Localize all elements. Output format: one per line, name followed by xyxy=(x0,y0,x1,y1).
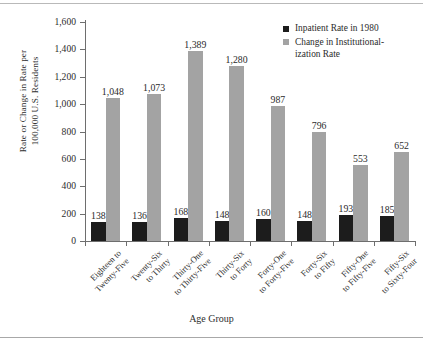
bar[interactable] xyxy=(297,221,312,241)
x-axis-tick xyxy=(291,241,292,246)
bottom-divider-rule xyxy=(0,337,423,338)
x-axis-tick xyxy=(250,241,251,246)
legend-swatch-icon-inpatient xyxy=(283,26,289,32)
legend-label-change-line-2: ization Rate xyxy=(295,48,423,61)
y-axis-tick xyxy=(80,186,85,187)
bar[interactable] xyxy=(380,216,395,241)
bar[interactable] xyxy=(188,51,203,241)
bar[interactable] xyxy=(106,98,121,241)
y-axis-tick-label: 400 xyxy=(16,181,76,191)
y-axis-tick xyxy=(80,132,85,133)
bar[interactable] xyxy=(394,152,409,241)
x-axis-tick xyxy=(374,241,375,246)
bar[interactable] xyxy=(91,222,106,241)
y-axis-tick xyxy=(80,104,85,105)
bar-value-label: 1,280 xyxy=(222,54,251,65)
bar-value-label: 652 xyxy=(387,140,416,151)
bar[interactable] xyxy=(215,221,230,241)
bar[interactable] xyxy=(147,94,162,241)
bar[interactable] xyxy=(312,132,327,241)
bar[interactable] xyxy=(229,66,244,241)
bar-chart-figure: Rate or Change in Rate per 100,000 U.S. … xyxy=(0,0,423,347)
y-axis-tick xyxy=(80,159,85,160)
x-axis-tick xyxy=(168,241,169,246)
legend-label-change-line-1: Change in Institutional- xyxy=(295,36,423,49)
y-axis-tick xyxy=(80,49,85,50)
y-axis-tick-label: 1,400 xyxy=(16,44,76,54)
x-axis-tick xyxy=(333,241,334,246)
y-axis-tick-label: 1,600 xyxy=(16,17,76,27)
legend-entry-change-institutionalization[interactable]: Change in Institutional- ization Rate xyxy=(283,36,423,61)
legend-entry-inpatient-rate[interactable]: Inpatient Rate in 1980 xyxy=(283,22,423,35)
y-axis-tick-label: 0 xyxy=(16,236,76,246)
y-axis-tick-label: 1,000 xyxy=(16,99,76,109)
y-axis-tick-label: 200 xyxy=(16,209,76,219)
y-axis-tick-label: 600 xyxy=(16,154,76,164)
legend-label-inpatient: Inpatient Rate in 1980 xyxy=(295,22,423,35)
bar[interactable] xyxy=(132,222,147,241)
bar-value-label: 1,389 xyxy=(181,39,210,50)
y-axis-tick-label: 800 xyxy=(16,127,76,137)
legend-swatch-icon-change xyxy=(283,39,289,45)
y-axis-tick xyxy=(80,22,85,23)
bar-value-label: 1,073 xyxy=(140,82,169,93)
bar[interactable] xyxy=(174,218,189,241)
bar[interactable] xyxy=(339,215,354,241)
bar[interactable] xyxy=(353,165,368,241)
y-axis-tick xyxy=(80,77,85,78)
x-axis-title: Age Group xyxy=(0,313,423,324)
x-axis-tick xyxy=(126,241,127,246)
bar-value-label: 1,048 xyxy=(99,86,128,97)
bar[interactable] xyxy=(271,106,286,241)
bar-value-label: 796 xyxy=(305,120,334,131)
bar-value-label: 553 xyxy=(346,153,375,164)
legend: Inpatient Rate in 1980 Change in Institu… xyxy=(283,22,423,62)
x-axis-tick xyxy=(415,241,416,246)
bar-value-label: 987 xyxy=(264,94,293,105)
bar[interactable] xyxy=(256,219,271,241)
x-axis-tick xyxy=(85,241,86,246)
y-axis-tick-label: 1,200 xyxy=(16,72,76,82)
top-divider-rule xyxy=(0,3,423,4)
x-axis-tick xyxy=(209,241,210,246)
